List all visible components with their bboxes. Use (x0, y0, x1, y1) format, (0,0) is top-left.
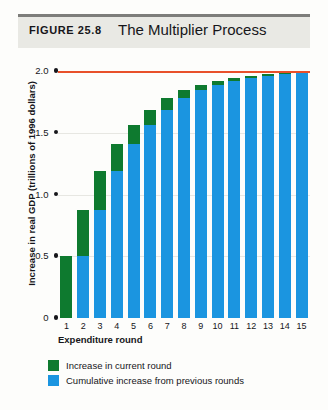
bar-segment-cumulative (111, 171, 123, 318)
legend-swatch-green (48, 360, 59, 371)
bar-segment-cumulative (178, 98, 190, 318)
legend-label-green: Increase in current round (66, 360, 172, 371)
x-axis-tick-2: 2 (75, 321, 92, 331)
x-axis-tick-9: 9 (192, 321, 209, 331)
bar-segment-cumulative (128, 144, 140, 318)
bar-segment-cumulative (279, 74, 291, 318)
bar-round-2 (77, 210, 89, 318)
figure-page: FIGURE 25.8 The Multiplier Process Incre… (0, 0, 328, 410)
bar-segment-current-round (178, 90, 190, 98)
x-axis-tick-10: 10 (209, 321, 226, 331)
bar-round-10 (212, 81, 224, 318)
x-axis-tick-11: 11 (226, 321, 243, 331)
x-axis-tick-15: 15 (293, 321, 310, 331)
x-axis-tick-6: 6 (142, 321, 159, 331)
bar-segment-current-round (144, 110, 156, 125)
legend-label-blue: Cumulative increase from previous rounds (66, 375, 244, 386)
bar-segment-cumulative (262, 76, 274, 318)
bar-segment-current-round (111, 144, 123, 171)
x-axis-tick-4: 4 (108, 321, 125, 331)
bar-round-12 (245, 76, 257, 318)
x-axis-tick-14: 14 (276, 321, 293, 331)
y-axis-tick-0.5: 0.5 (2, 250, 58, 261)
bar-round-13 (262, 74, 274, 318)
bar-round-1 (60, 256, 72, 318)
bar-segment-cumulative (228, 81, 240, 318)
x-axis-tick-1: 1 (58, 321, 75, 331)
bar-round-11 (228, 78, 240, 318)
bar-segment-cumulative (195, 90, 207, 318)
figure-title: The Multiplier Process (118, 21, 266, 38)
legend: Increase in current roundCumulative incr… (48, 360, 244, 390)
y-axis-tick-1.5: 1.5 (2, 127, 58, 138)
x-axis-tick-3: 3 (92, 321, 109, 331)
bar-segment-current-round (128, 125, 140, 144)
bar-round-6 (144, 110, 156, 318)
equilibrium-target-line (58, 71, 310, 73)
bar-segment-cumulative (212, 85, 224, 318)
x-axis-tick-7: 7 (159, 321, 176, 331)
x-axis-title: Expenditure round (58, 334, 142, 345)
x-axis-tick-13: 13 (260, 321, 277, 331)
bar-segment-current-round (161, 98, 173, 110)
x-axis-tick-8: 8 (176, 321, 193, 331)
y-axis: Increase in real GDP (trillions of 1996 … (0, 0, 58, 410)
bar-round-8 (178, 90, 190, 318)
bar-segment-cumulative (94, 210, 106, 318)
bar-round-15 (296, 73, 308, 318)
bar-round-5 (128, 125, 140, 318)
legend-item-green: Increase in current round (48, 360, 244, 371)
bar-segment-cumulative (296, 73, 308, 318)
legend-swatch-blue (48, 375, 59, 386)
y-axis-tick-0: 0 (2, 312, 58, 323)
x-axis-tick-12: 12 (243, 321, 260, 331)
bar-round-7 (161, 98, 173, 318)
bar-segment-cumulative (77, 256, 89, 318)
plot-area (58, 71, 310, 318)
y-axis-tick-1.0: 1.0 (2, 189, 58, 200)
bar-segment-cumulative (245, 78, 257, 318)
bar-round-3 (94, 171, 106, 318)
y-axis-tick-2.0: 2.0 (2, 65, 58, 76)
bar-segment-cumulative (161, 110, 173, 318)
bar-segment-current-round (77, 210, 89, 256)
bar-segment-cumulative (144, 125, 156, 318)
x-axis-tick-5: 5 (125, 321, 142, 331)
bar-segment-current-round (94, 171, 106, 210)
legend-item-blue: Cumulative increase from previous rounds (48, 375, 244, 386)
header-top-rule (18, 14, 310, 17)
bar-round-4 (111, 144, 123, 318)
bar-round-9 (195, 85, 207, 318)
bar-round-14 (279, 73, 291, 318)
bar-segment-current-round (60, 256, 72, 318)
